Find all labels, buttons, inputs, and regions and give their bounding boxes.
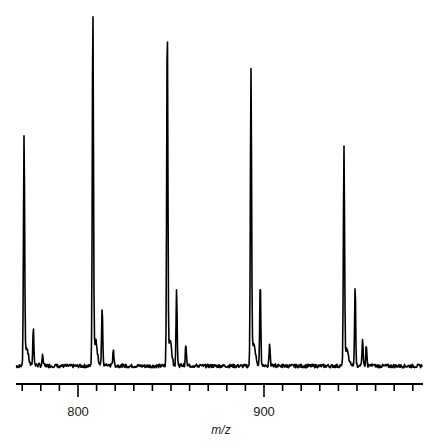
x-axis-ticks (22, 384, 413, 397)
x-tick-label-800: 800 (67, 404, 89, 419)
mass-spectrum-plot (0, 0, 438, 447)
x-tick-label-900: 900 (253, 404, 275, 419)
x-axis-label: m/z (211, 423, 230, 437)
spectrum-trace (16, 17, 422, 368)
